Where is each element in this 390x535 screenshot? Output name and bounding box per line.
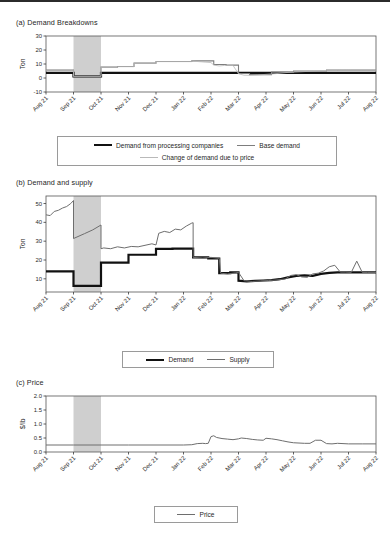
legend-swatch-icon bbox=[177, 514, 195, 515]
x-tick-label: Jan 22 bbox=[170, 95, 187, 112]
x-tick-label: Oct 21 bbox=[87, 295, 104, 312]
x-tick-label: Jun 22 bbox=[307, 295, 324, 312]
x-tick-label: Dec 21 bbox=[141, 95, 158, 112]
legend-label: Change of demand due to price bbox=[162, 153, 254, 162]
figure-root: (a) Demand Breakdowns -100102030TonAug 2… bbox=[0, 0, 390, 535]
x-tick-label: Aug 22 bbox=[361, 95, 378, 112]
y-tick-label: -10 bbox=[33, 89, 42, 95]
panel-b-svg: 1020304050TonAug 21Sep 21Oct 21Nov 21Dec… bbox=[0, 190, 390, 342]
y-tick-label: 1.5 bbox=[34, 407, 43, 413]
x-tick-label: May 22 bbox=[278, 95, 296, 113]
x-tick-label: Jun 22 bbox=[307, 95, 324, 112]
top-rule bbox=[0, 0, 390, 2]
panel-a-title: (a) Demand Breakdowns bbox=[16, 18, 390, 28]
x-tick-label: Nov 21 bbox=[114, 95, 131, 112]
y-tick-label: 40 bbox=[35, 219, 42, 225]
x-tick-label: Sep 21 bbox=[59, 95, 76, 112]
x-tick-label: Jul 22 bbox=[336, 295, 351, 310]
panel-c-title: (c) Price bbox=[16, 378, 390, 388]
legend-label: Demand from processing companies bbox=[116, 141, 223, 150]
y-tick-label: 10 bbox=[35, 61, 42, 67]
legend-label: Supply bbox=[229, 355, 249, 364]
y-axis-title: $/lb bbox=[19, 418, 26, 429]
x-tick-label: Mar 22 bbox=[224, 455, 241, 472]
panel-b-legend: DemandSupply bbox=[122, 351, 274, 368]
legend-item: Price bbox=[177, 510, 214, 519]
x-tick-label: Aug 22 bbox=[361, 295, 378, 312]
x-tick-label: Mar 22 bbox=[224, 295, 241, 312]
x-tick-label: Jun 22 bbox=[307, 455, 324, 472]
x-tick-label: Jul 22 bbox=[336, 95, 351, 110]
legend-label: Demand bbox=[168, 355, 193, 364]
panel-c: (c) Price 0.00.51.01.52.0$/lbAug 21Sep 2… bbox=[0, 378, 390, 500]
legend-swatch-icon bbox=[94, 144, 112, 146]
x-tick-label: Mar 22 bbox=[224, 95, 241, 112]
y-axis-title: Ton bbox=[19, 58, 26, 69]
y-tick-label: 10 bbox=[35, 276, 42, 282]
x-tick-label: Apr 22 bbox=[252, 95, 269, 112]
x-tick-label: Dec 21 bbox=[141, 295, 158, 312]
panel-a-svg: -100102030TonAug 21Sep 21Oct 21Nov 21Dec… bbox=[0, 30, 390, 142]
legend-item: Demand bbox=[146, 355, 193, 364]
x-tick-label: Sep 21 bbox=[59, 295, 76, 312]
x-tick-label: Apr 22 bbox=[252, 295, 269, 312]
y-tick-label: 0.0 bbox=[34, 449, 43, 455]
shaded-region bbox=[74, 36, 102, 92]
x-tick-label: Oct 21 bbox=[87, 95, 104, 112]
legend-item: Supply bbox=[207, 355, 249, 364]
x-tick-label: Aug 21 bbox=[31, 295, 48, 312]
legend-item: Change of demand due to price bbox=[140, 153, 254, 162]
legend-item: Demand from processing companies bbox=[94, 141, 223, 150]
y-tick-label: 20 bbox=[35, 257, 42, 263]
legend-swatch-icon bbox=[207, 359, 225, 360]
x-tick-label: Aug 21 bbox=[31, 95, 48, 112]
x-tick-label: Aug 22 bbox=[361, 455, 378, 472]
shaded-region bbox=[74, 396, 102, 452]
x-tick-label: Oct 21 bbox=[87, 455, 104, 472]
x-tick-label: Feb 22 bbox=[197, 295, 214, 312]
x-tick-label: Sep 21 bbox=[59, 455, 76, 472]
panel-c-legend: Price bbox=[154, 506, 238, 523]
x-tick-label: Jan 22 bbox=[170, 455, 187, 472]
x-tick-label: Feb 22 bbox=[197, 95, 214, 112]
panel-b-plot: 1020304050TonAug 21Sep 21Oct 21Nov 21Dec… bbox=[0, 190, 390, 342]
panel-a: (a) Demand Breakdowns -100102030TonAug 2… bbox=[0, 18, 390, 142]
x-tick-label: Aug 21 bbox=[31, 455, 48, 472]
x-tick-label: Feb 22 bbox=[197, 455, 214, 472]
panel-b-title: (b) Demand and supply bbox=[16, 178, 390, 188]
legend-item: Base demand bbox=[237, 141, 300, 150]
legend-swatch-icon bbox=[140, 157, 158, 158]
x-tick-label: Jan 22 bbox=[170, 295, 187, 312]
x-tick-label: May 22 bbox=[278, 295, 296, 313]
x-tick-label: Nov 21 bbox=[114, 455, 131, 472]
y-tick-label: 2.0 bbox=[34, 393, 43, 399]
legend-label: Base demand bbox=[259, 141, 300, 150]
y-axis-title: Ton bbox=[19, 238, 26, 249]
panel-a-plot: -100102030TonAug 21Sep 21Oct 21Nov 21Dec… bbox=[0, 30, 390, 142]
y-tick-label: 30 bbox=[35, 33, 42, 39]
panel-c-plot: 0.00.51.01.52.0$/lbAug 21Sep 21Oct 21Nov… bbox=[0, 390, 390, 500]
y-tick-label: 1.0 bbox=[34, 421, 43, 427]
x-tick-label: Jul 22 bbox=[336, 455, 351, 470]
panel-b: (b) Demand and supply 1020304050TonAug 2… bbox=[0, 178, 390, 342]
y-tick-label: 50 bbox=[35, 201, 42, 207]
legend-label: Price bbox=[199, 510, 214, 519]
panel-c-svg: 0.00.51.01.52.0$/lbAug 21Sep 21Oct 21Nov… bbox=[0, 390, 390, 500]
y-tick-label: 30 bbox=[35, 238, 42, 244]
x-tick-label: Dec 21 bbox=[141, 455, 158, 472]
x-tick-label: May 22 bbox=[278, 455, 296, 473]
panel-a-legend: Demand from processing companiesBase dem… bbox=[57, 136, 337, 166]
y-tick-label: 0 bbox=[39, 75, 43, 81]
x-tick-label: Nov 21 bbox=[114, 295, 131, 312]
legend-swatch-icon bbox=[146, 359, 164, 361]
y-tick-label: 0.5 bbox=[34, 435, 43, 441]
legend-swatch-icon bbox=[237, 145, 255, 146]
y-tick-label: 20 bbox=[35, 47, 42, 53]
x-tick-label: Apr 22 bbox=[252, 455, 269, 472]
shaded-region bbox=[74, 196, 102, 292]
